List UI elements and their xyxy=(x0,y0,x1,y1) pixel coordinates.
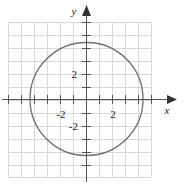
y-tick-label-pos2: 2 xyxy=(72,68,78,80)
x-axis-label: x xyxy=(164,104,170,116)
x-tick-label-neg2: -2 xyxy=(56,108,65,120)
x-tick-label-pos2: 2 xyxy=(110,108,116,120)
y-tick-label-neg2: -2 xyxy=(69,120,78,132)
x-axis-arrow-icon xyxy=(167,95,177,104)
coordinate-plane-svg: x y -2 2 2 -2 xyxy=(0,0,186,185)
y-axis-label: y xyxy=(71,5,77,17)
x-axis xyxy=(2,95,177,104)
y-axis-arrow-icon xyxy=(82,5,91,16)
graph-figure: x y -2 2 2 -2 xyxy=(0,0,186,185)
